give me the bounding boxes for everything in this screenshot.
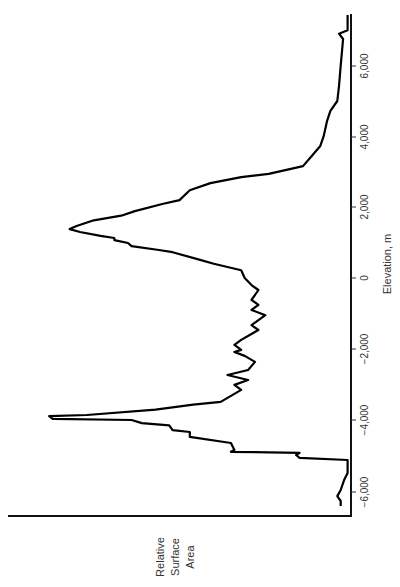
tick-label: −4,000	[359, 404, 370, 435]
tick-label: −6,000	[359, 476, 370, 507]
elevation-axis-title: Elevation, m	[381, 234, 393, 295]
area-axis-title-line: Relative	[154, 537, 166, 577]
tick-label: −2,000	[359, 333, 370, 364]
tick-label: 4,000	[359, 124, 370, 149]
tick-label: 6,000	[359, 53, 370, 78]
tick-label: 2,000	[359, 194, 370, 219]
hypsographic-chart: 6,000 4,000 2,000 0 −2,000 −4,000 −6,000…	[0, 0, 400, 587]
area-axis-title-line: Area	[184, 545, 196, 569]
tick-label: 0	[359, 275, 370, 281]
elevation-tick-labels: 6,000 4,000 2,000 0 −2,000 −4,000 −6,000	[359, 53, 370, 507]
area-axis-title-line: Surface	[169, 538, 181, 576]
hypsographic-curve	[49, 15, 347, 506]
area-axis-title: Relative Surface Area	[154, 537, 196, 577]
